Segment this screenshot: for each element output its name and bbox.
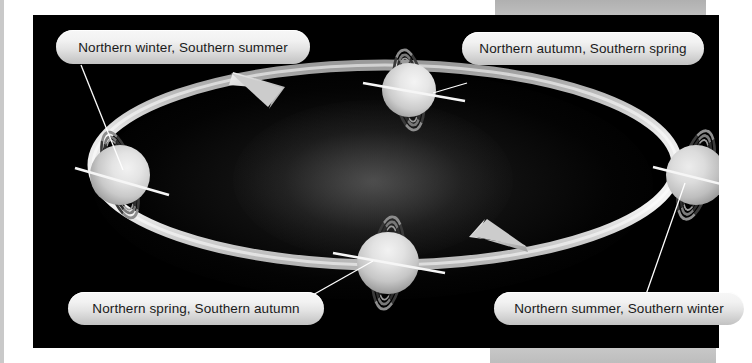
label-northern-autumn: Northern autumn, Southern spring [462, 32, 704, 65]
label-northern-spring-text: Northern spring, Southern autumn [92, 301, 299, 316]
label-northern-winter: Northern winter, Southern summer [56, 30, 310, 64]
page-panel-bottom [490, 347, 716, 363]
label-northern-summer-text: Northern summer, Southern winter [514, 301, 724, 316]
label-northern-spring: Northern spring, Southern autumn [68, 292, 324, 325]
leader-line-northern-summer [643, 183, 685, 303]
figure-page: Northern winter, Southern summer Norther… [0, 0, 752, 363]
label-northern-summer: Northern summer, Southern winter [494, 292, 744, 325]
leader-line-northern-winter [81, 65, 123, 170]
page-left-edge [0, 0, 4, 363]
label-northern-winter-text: Northern winter, Southern summer [78, 40, 288, 55]
leader-line-northern-autumn [433, 83, 467, 93]
label-northern-autumn-text: Northern autumn, Southern spring [479, 41, 686, 56]
